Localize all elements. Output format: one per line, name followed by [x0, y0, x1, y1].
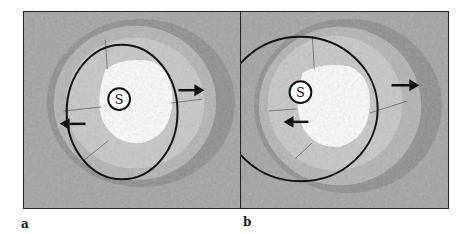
panel-b-image: S: [240, 11, 449, 209]
histology-section-b: S: [241, 12, 448, 208]
marker-s-b: S: [296, 85, 305, 100]
panel-b-label: b: [243, 215, 251, 229]
panel-a-label: a: [21, 217, 29, 231]
panel-a-image: S: [23, 11, 242, 209]
histology-section-a: S: [24, 12, 241, 208]
marker-s-a: S: [115, 92, 124, 107]
